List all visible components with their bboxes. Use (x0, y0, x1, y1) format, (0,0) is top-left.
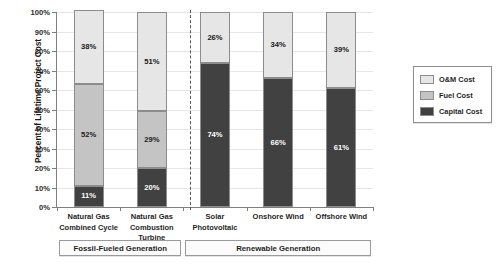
y-axis-tick-mark (52, 149, 56, 150)
x-axis-category-label: Natural GasCombined Cycle (57, 212, 120, 233)
bar-segment[interactable]: 52% (74, 84, 104, 185)
legend-item[interactable]: O&M Cost (420, 72, 491, 87)
bar-column[interactable]: 61%39% (326, 12, 356, 207)
x-axis-tick-mark (310, 207, 311, 211)
x-axis-tick-mark (57, 207, 58, 211)
bar-segment[interactable]: 38% (74, 10, 104, 84)
y-axis-tick-label: 80% (4, 47, 50, 56)
bar-segment[interactable]: 11% (74, 186, 104, 207)
legend-item-label: O&M Cost (439, 75, 475, 84)
x-axis-category-label-line: Solar Photovoltaic (183, 212, 246, 233)
legend-color-swatch (420, 107, 434, 116)
x-axis-category-label: Natural GasCombustion Turbine (120, 212, 183, 244)
x-axis-category-label-line: Combined Cycle (57, 223, 120, 234)
bar-segment-value-label: 52% (81, 131, 96, 139)
y-axis-tick-labels: 100%90%80%70%60%50%40%30%20%10%0% (0, 0, 50, 264)
bar-column[interactable]: 11%52%38% (74, 12, 104, 207)
y-axis-tick-mark (52, 129, 56, 130)
y-axis-tick-label: 40% (4, 125, 50, 134)
bar-segment[interactable]: 34% (263, 12, 293, 78)
y-axis-tick-mark (52, 168, 56, 169)
stacked-bar-chart: Percent of Lifetime Project Cost 100%90%… (0, 0, 496, 264)
bar-segment[interactable]: 74% (200, 63, 230, 207)
y-axis-tick-mark (52, 188, 56, 189)
legend-item[interactable]: Capital Cost (420, 104, 491, 119)
legend-item[interactable]: Fuel Cost (420, 88, 491, 103)
x-axis-category-label-line: Offshore Wind (310, 212, 373, 223)
y-axis-tick-mark (52, 207, 56, 208)
y-axis-tick-label: 100% (4, 8, 50, 17)
bar-segment-value-label: 38% (81, 43, 96, 51)
bar-segment-value-label: 39% (334, 46, 349, 54)
y-axis-tick-label: 60% (4, 86, 50, 95)
y-axis-tick-mark (52, 71, 56, 72)
bar-column[interactable]: 66%34% (263, 12, 293, 207)
legend-color-swatch (420, 91, 434, 100)
group-annotation-box-fossil: Fossil-Fueled Generation (59, 240, 181, 256)
bar-column[interactable]: 20%29%51% (137, 12, 167, 207)
bar-segment-value-label: 61% (334, 144, 349, 152)
legend-item-label: Fuel Cost (439, 91, 473, 100)
y-axis-tick-mark (52, 110, 56, 111)
bar-segment-value-label: 34% (271, 41, 286, 49)
bar-segment[interactable]: 39% (326, 12, 356, 88)
bar-segment[interactable]: 66% (263, 78, 293, 207)
bar-segment[interactable]: 26% (200, 12, 230, 63)
bar-segment-value-label: 51% (144, 58, 159, 66)
group-divider-dashed-line (190, 10, 191, 210)
x-axis-line (57, 207, 374, 208)
legend-item-label: Capital Cost (439, 107, 482, 116)
bar-segment-value-label: 26% (207, 34, 222, 42)
x-axis-category-label-line: Natural Gas (120, 212, 183, 223)
y-axis-tick-label: 50% (4, 105, 50, 114)
x-axis-category-label: Solar Photovoltaic (183, 212, 246, 233)
bar-segment[interactable]: 61% (326, 88, 356, 207)
y-axis-tick-label: 90% (4, 27, 50, 36)
bar-segment-value-label: 29% (144, 136, 159, 144)
x-axis-tick-mark (120, 207, 121, 211)
chart-legend: O&M CostFuel CostCapital Cost (413, 66, 492, 123)
y-axis-tick-mark (52, 32, 56, 33)
bar-segment[interactable]: 51% (137, 12, 167, 111)
bar-segment[interactable]: 29% (137, 111, 167, 168)
y-axis-tick-mark (52, 90, 56, 91)
bar-segment-value-label: 11% (81, 192, 96, 200)
bar-segment-value-label: 66% (271, 139, 286, 147)
bar-segment[interactable]: 20% (137, 168, 167, 207)
x-axis-tick-mark (373, 207, 374, 211)
x-axis-category-label: Onshore Wind (247, 212, 310, 223)
legend-color-swatch (420, 75, 434, 84)
x-axis-tick-mark (247, 207, 248, 211)
bar-segment-value-label: 74% (207, 131, 222, 139)
y-axis-tick-mark (52, 12, 56, 13)
y-axis-tick-label: 10% (4, 183, 50, 192)
x-axis-category-label-line: Onshore Wind (247, 212, 310, 223)
y-axis-tick-label: 20% (4, 164, 50, 173)
x-axis-category-label-line: Natural Gas (57, 212, 120, 223)
group-annotation-box-renewable: Renewable Generation (185, 240, 371, 256)
y-axis-tick-label: 70% (4, 66, 50, 75)
bar-column[interactable]: 74%26% (200, 12, 230, 207)
y-axis-tick-mark (52, 51, 56, 52)
bar-segment-value-label: 20% (144, 184, 159, 192)
x-axis-tick-mark (183, 207, 184, 211)
y-axis-tick-label: 0% (4, 203, 50, 212)
plot-area: 11%52%38%20%29%51%74%26%66%34%61%39% (57, 12, 373, 207)
y-axis-tick-label: 30% (4, 144, 50, 153)
x-axis-category-label: Offshore Wind (310, 212, 373, 223)
